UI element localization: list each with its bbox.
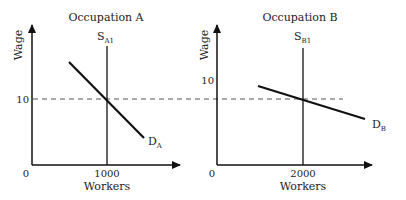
panel-a-y-tick: 10 (16, 94, 29, 105)
panel-a-title: Occupation A (68, 11, 144, 24)
panel-a-supply-label: SA1 (97, 30, 114, 45)
panel-b-x-axis-label: Workers (280, 180, 327, 193)
panel-occupation-b: Occupation B Wage 10 0 2000 Workers SB1 … (198, 11, 386, 193)
panel-b-y-tick: 10 (201, 75, 214, 86)
panel-b-supply-label: SB1 (294, 30, 311, 45)
panel-b-demand-label: DB (372, 118, 386, 133)
panel-b-y-axis-label: Wage (198, 30, 211, 60)
panel-a-x-tick: 1000 (94, 168, 119, 179)
panel-b-x-tick: 2000 (290, 168, 315, 179)
panel-b-title: Occupation B (262, 11, 337, 24)
panel-a-demand-label: DA (148, 135, 163, 150)
labor-market-diagram: Occupation A Wage 10 0 1000 Workers SA1 … (0, 0, 406, 200)
panel-a-origin-label: 0 (23, 168, 29, 179)
panel-occupation-a: Occupation A Wage 10 0 1000 Workers SA1 … (12, 11, 180, 193)
panel-a-y-axis-label: Wage (12, 30, 25, 60)
panel-b-origin-label: 0 (209, 168, 215, 179)
panel-b-demand-curve (258, 86, 365, 119)
panel-a-x-axis-label: Workers (84, 180, 131, 193)
